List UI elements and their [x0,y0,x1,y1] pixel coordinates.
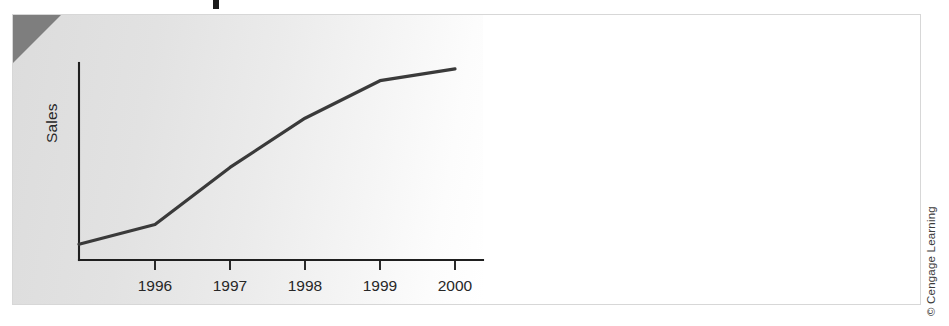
x-tick-label-0: 1996 [138,277,172,294]
x-tick-label-2: 1998 [288,277,322,294]
x-axis-ticks [155,260,455,270]
copyright-credit: © Cengage Learning [925,206,937,316]
cropped-title-fragment [213,0,219,9]
chart-svg: 1996 1997 1998 1999 2000 [13,15,513,304]
x-tick-label-4: 2000 [438,277,473,294]
x-tick-label-1: 1997 [213,277,247,294]
sales-series-line [79,69,455,244]
x-axis-tick-labels: 1996 1997 1998 1999 2000 [138,277,473,294]
x-tick-label-3: 1999 [363,277,397,294]
sales-line-chart: 1996 1997 1998 1999 2000 [13,15,513,304]
figure-box: 1996 1997 1998 1999 2000 Sales [12,14,921,305]
y-axis-title: Sales [43,103,61,143]
